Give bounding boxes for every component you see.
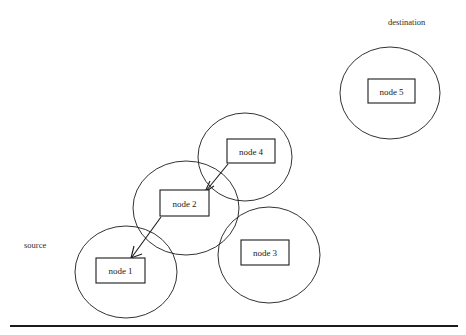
source-label: source: [24, 240, 46, 250]
destination-label: destination: [388, 17, 426, 27]
node-4-label: node 4: [239, 147, 264, 157]
edge-node4-to-node2[interactable]: [206, 164, 228, 191]
node-3[interactable]: node 3: [241, 240, 289, 265]
diagram-svg: node 5 node 4 node 2 node 3 node 1 desti…: [0, 0, 466, 335]
node-4[interactable]: node 4: [227, 139, 275, 163]
node-5[interactable]: node 5: [368, 79, 415, 103]
edge-node2-to-node1[interactable]: [132, 217, 161, 257]
node-1-label: node 1: [108, 266, 132, 276]
node-3-label: node 3: [253, 248, 278, 258]
diagram-canvas: node 5 node 4 node 2 node 3 node 1 desti…: [0, 0, 466, 335]
node-5-label: node 5: [379, 87, 404, 97]
node-box-group: node 5 node 4 node 2 node 3 node 1: [96, 79, 415, 283]
node-2-label: node 2: [172, 199, 196, 209]
node-2[interactable]: node 2: [160, 190, 209, 216]
node-1[interactable]: node 1: [96, 258, 145, 283]
